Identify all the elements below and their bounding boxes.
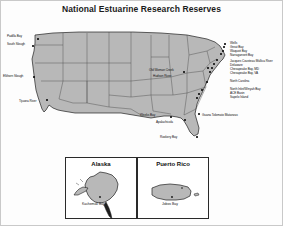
us-map-svg: [1, 15, 283, 155]
site-marker-chesapeake-md: [211, 67, 213, 69]
site-marker-great-bay: [223, 46, 225, 48]
inset-alaska-site-label: Kachemak Bay: [82, 202, 105, 206]
site-label-old-woman-creek: Old Woman Creek: [149, 69, 174, 73]
site-marker-delaware: [213, 63, 215, 65]
inset-alaska: Alaska Kachemak Bay: [65, 157, 137, 219]
site-marker-narragansett-bay: [220, 53, 222, 55]
site-marker-ace-basin: [198, 93, 200, 95]
site-marker-old-woman-creek: [183, 71, 185, 73]
site-marker-weeks-bay: [170, 116, 172, 118]
us-map-stage: [1, 15, 283, 155]
map-figure-frame: National Estuarine Research Reserves: [0, 0, 283, 226]
us-outline: [32, 32, 225, 136]
site-label-rookery-bay: Rookery Bay: [160, 136, 177, 140]
site-marker-jacques-cousteau: [216, 59, 218, 61]
site-marker-wells: [224, 43, 226, 45]
puerto-rico-shape: [138, 166, 208, 226]
contiguous-us-landmass: [32, 32, 225, 136]
site-label-apalachicola: Apalachicola: [156, 121, 173, 125]
site-label-narragansett-bay: Narragansett Bay: [230, 54, 253, 58]
site-label-chesapeake-va: Chesapeake Bay, VA: [230, 72, 258, 76]
site-marker-elkhorn-slough: [33, 76, 35, 78]
alaska-shape: [66, 166, 136, 226]
site-marker-south-slough: [32, 45, 34, 47]
site-label-weeks-bay: Weeks Bay: [140, 114, 155, 118]
site-marker-north-inlet: [201, 89, 203, 91]
site-label-hudson-river: Hudson River: [153, 75, 171, 79]
site-marker-north-carolina: [206, 81, 208, 83]
site-label-sapelo-island: Sapelo Island: [230, 96, 248, 100]
site-label-south-slough: South Slough: [7, 43, 25, 47]
inset-puerto-rico: Puerto Rico Jobos Bay: [137, 157, 209, 219]
site-marker-rookery-bay: [196, 136, 198, 138]
site-marker-padilla-bay: [37, 38, 39, 40]
page-title: National Estuarine Research Reserves: [1, 4, 282, 14]
site-label-north-carolina: North Carolina: [230, 80, 249, 84]
site-marker-tijuana-river: [46, 99, 48, 101]
site-label-padilla-bay: Padilla Bay: [7, 35, 22, 39]
site-marker-sapelo-island: [196, 97, 198, 99]
site-marker-apalachicola: [184, 119, 186, 121]
site-marker-hudson-river: [207, 67, 209, 69]
site-marker-chesapeake-va: [209, 71, 211, 73]
site-label-tijuana-river: Tijuana River: [19, 100, 36, 104]
site-label-guana-tolomato-matanzas: Guana Tolomato Matanzas: [202, 114, 238, 118]
site-marker-guana-tolomato-matanzas: [198, 113, 200, 115]
site-label-elkhorn-slough: Elkhorn Slough: [3, 75, 23, 79]
site-marker-waquoit-bay: [222, 50, 224, 52]
inset-puerto-rico-site-label: Jobos Bay: [162, 202, 178, 206]
